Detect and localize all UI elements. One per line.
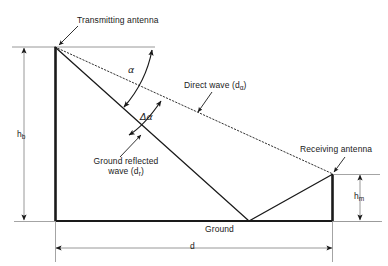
distance-label: d [190, 241, 195, 251]
receiving-antenna-leader [334, 157, 345, 172]
propagation-diagram: Transmitting antenna Receiving antenna D… [0, 0, 388, 266]
ground-reflected-wave-label-line1: Ground reflected [94, 156, 159, 166]
hm-label: hm [354, 191, 364, 202]
receiving-antenna-label: Receiving antenna [300, 144, 372, 154]
direct-wave-label-subscript: α [240, 84, 244, 91]
transmitting-antenna-label: Transmitting antenna [77, 15, 159, 25]
ground-label: Ground [205, 224, 234, 234]
ground-reflected-wave-label-line2: wave (d [108, 166, 138, 176]
ground-reflected-wave-label-subscript: r [139, 170, 141, 177]
angle-alpha-label: α [128, 65, 134, 75]
direct-wave-label-close: ) [244, 80, 247, 90]
hm-label-subscript: m [359, 195, 365, 202]
direct-wave-label: Direct wave (dα) [184, 80, 247, 91]
hb-label-subscript: b [22, 133, 26, 140]
ground-reflected-wave-label: Ground reflectedwave (dr) [78, 156, 174, 177]
diagram-canvas [0, 0, 388, 266]
ground-reflected-wave-path [55, 47, 333, 221]
angle-alpha-arc [124, 50, 152, 107]
angle-delta-alpha-label: Δα [140, 112, 153, 122]
transmitting-antenna-leader [59, 26, 78, 45]
direct-wave-path [55, 47, 333, 174]
ground-reflected-wave-leader [120, 135, 141, 157]
direct-wave-label-text: Direct wave (d [184, 80, 240, 90]
direct-wave-leader [198, 92, 212, 112]
ground-reflected-wave-label-close: ) [141, 166, 144, 176]
hb-label: hb [17, 129, 26, 140]
